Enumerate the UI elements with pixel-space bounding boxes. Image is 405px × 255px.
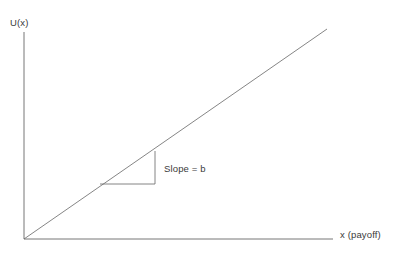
utility-series-group [24, 29, 327, 239]
utility-function-chart: U(x) x (payoff) Slope = b [0, 0, 405, 255]
chart-canvas [0, 0, 405, 255]
axes-group [24, 32, 333, 239]
utility-line [24, 29, 327, 239]
y-axis-label: U(x) [10, 17, 29, 28]
slope-annotation-label: Slope = b [164, 163, 206, 174]
x-axis-label: x (payoff) [340, 229, 381, 240]
